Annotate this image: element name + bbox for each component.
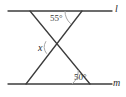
geometry-diagram	[0, 0, 126, 97]
line-label-l: l	[115, 4, 118, 14]
angle-label-x: x	[38, 43, 42, 53]
angle-label-top: 55°	[50, 14, 63, 23]
line-label-m: m	[113, 78, 120, 88]
angle-arc-x	[44, 41, 46, 54]
angle-arc-top	[65, 11, 71, 24]
geometry-figure: 55° 50° x l m	[0, 0, 126, 97]
angle-label-bottom: 50°	[74, 73, 87, 82]
